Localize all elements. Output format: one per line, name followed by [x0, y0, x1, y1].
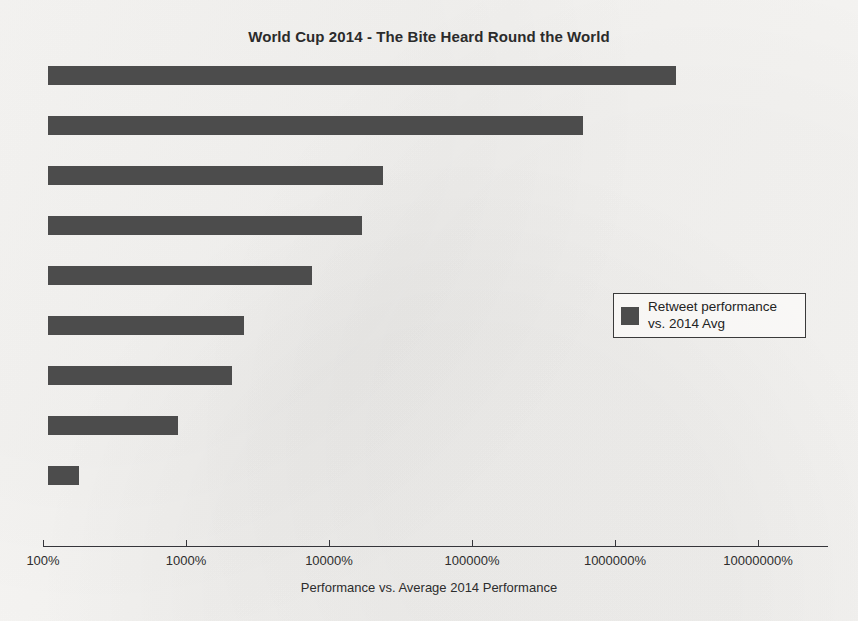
x-axis-tick-label: 1000%: [166, 553, 206, 568]
x-axis-tick: [615, 540, 616, 547]
x-axis-tick-label: 1000000%: [584, 553, 646, 568]
bar: [48, 316, 244, 335]
legend: Retweet performance vs. 2014 Avg: [613, 293, 806, 338]
chart-page: World Cup 2014 - The Bite Heard Round th…: [0, 0, 858, 621]
x-axis-tick-label: 100%: [26, 553, 59, 568]
x-axis-tick: [43, 540, 44, 547]
bar: [48, 466, 79, 485]
x-axis-line: [43, 546, 828, 547]
x-axis-title: Performance vs. Average 2014 Performance: [0, 580, 858, 595]
x-axis-tick: [186, 540, 187, 547]
x-axis-tick-label: 10000000%: [723, 553, 792, 568]
bar: [48, 116, 583, 135]
bar: [48, 266, 312, 285]
x-axis-tick: [758, 540, 759, 547]
x-axis-tick: [329, 540, 330, 547]
legend-label: Retweet performance vs. 2014 Avg: [648, 299, 798, 333]
x-axis-tick-label: 100000%: [445, 553, 500, 568]
x-axis-tick-label: 10000%: [305, 553, 353, 568]
bar: [48, 416, 178, 435]
x-axis-tick: [472, 540, 473, 547]
bar: [48, 66, 676, 85]
bar: [48, 366, 232, 385]
bar: [48, 166, 383, 185]
bar: [48, 216, 362, 235]
legend-swatch-icon: [621, 307, 639, 325]
